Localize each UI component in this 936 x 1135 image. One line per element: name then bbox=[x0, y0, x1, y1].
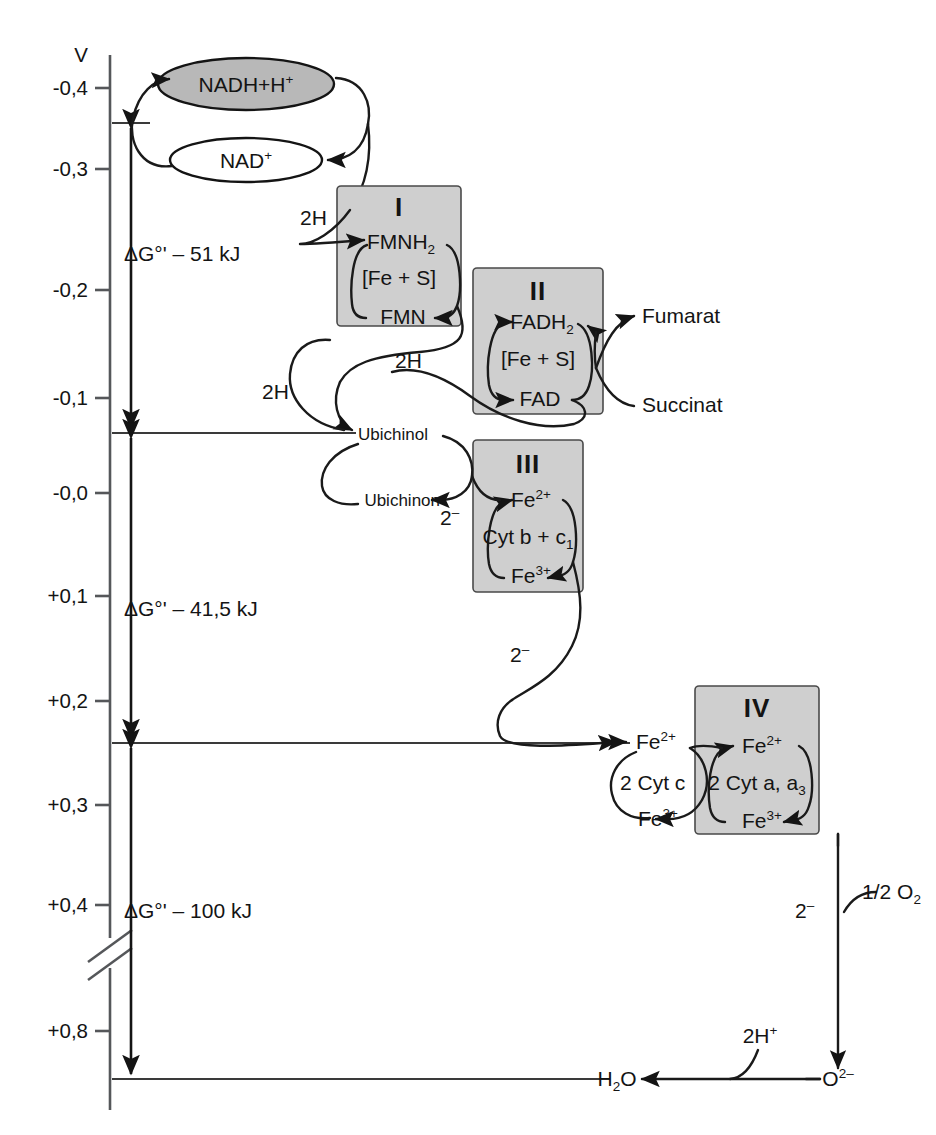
two-electron-label-a: 2– bbox=[440, 505, 460, 529]
ubichinon-label: Ubichinon bbox=[364, 491, 440, 510]
axis-tick-label: -0,1 bbox=[53, 386, 88, 409]
axis-unit-label: V bbox=[74, 43, 88, 66]
axis-tick-label: +0,1 bbox=[48, 584, 88, 607]
delta-g-label-3: ΔG°' – 100 kJ bbox=[124, 899, 252, 922]
complex-iv-middle: 2 Cyt a, a3 bbox=[708, 771, 805, 798]
complex-ii-top: FADH2 bbox=[510, 310, 574, 337]
complex-ii-roman: II bbox=[530, 276, 546, 306]
complex-i-roman: I bbox=[395, 192, 403, 222]
complex-iii-middle: Cyt b + c1 bbox=[483, 525, 574, 552]
cytc-fe3-label: Fe3+ bbox=[638, 806, 678, 830]
nadh-label: NADH+H+ bbox=[199, 72, 294, 96]
axis-tick-label: +0,8 bbox=[48, 1019, 88, 1042]
delta-g-label-1: ΔG°' – 51 kJ bbox=[124, 242, 240, 265]
complex-i-bottom: FMN bbox=[380, 305, 426, 328]
axis-tick-label: +0,2 bbox=[48, 689, 88, 712]
axis-tick-label: -0,2 bbox=[53, 278, 88, 301]
delta-g-label-2: ΔG°' – 41,5 kJ bbox=[124, 597, 258, 620]
ubichinol-label: Ubichinol bbox=[358, 425, 428, 444]
oxide-label: O2– bbox=[822, 1066, 854, 1090]
two-electron-label-c: 2– bbox=[795, 898, 815, 922]
complex-i-top: FMNH2 bbox=[367, 230, 435, 257]
etc-diagram: V -0,4 -0,3 -0,2 -0,1 -0,0 +0,1 +0,2 +0,… bbox=[0, 0, 936, 1135]
complex-iv-roman: IV bbox=[744, 693, 771, 723]
protons-label: 2H+ bbox=[743, 1023, 778, 1047]
two-h-label-b: 2H bbox=[262, 380, 289, 403]
water-label: H2O bbox=[597, 1067, 636, 1094]
two-h-label-a: 2H bbox=[300, 206, 327, 229]
axis-tick-label: -0,0 bbox=[53, 481, 88, 504]
cytc-label: 2 Cyt c bbox=[620, 771, 685, 794]
succinat-label: Succinat bbox=[642, 393, 723, 416]
axis-tick-label: -0,4 bbox=[53, 76, 88, 99]
oxygen-label: 1/2 O2 bbox=[862, 880, 921, 907]
complex-ii-middle: [Fe + S] bbox=[501, 347, 575, 370]
etc-svg-canvas: V -0,4 -0,3 -0,2 -0,1 -0,0 +0,1 +0,2 +0,… bbox=[0, 0, 936, 1135]
axis-ticks bbox=[95, 88, 110, 1031]
fumarat-label: Fumarat bbox=[642, 304, 720, 327]
complex-iii-roman: III bbox=[516, 449, 541, 479]
axis-tick-label: -0,3 bbox=[53, 157, 88, 180]
two-electron-label-b: 2– bbox=[510, 642, 530, 666]
two-h-label-c: 2H bbox=[395, 349, 422, 372]
axis-tick-label: +0,4 bbox=[48, 893, 88, 916]
potential-axis: V -0,4 -0,3 -0,2 -0,1 -0,0 +0,1 +0,2 +0,… bbox=[48, 43, 132, 1110]
cytc-fe2-label: Fe2+ bbox=[636, 729, 676, 753]
complex-i-middle: [Fe + S] bbox=[362, 266, 436, 289]
complex-ii-bottom: FAD bbox=[520, 387, 561, 410]
axis-tick-label: +0,3 bbox=[48, 793, 88, 816]
